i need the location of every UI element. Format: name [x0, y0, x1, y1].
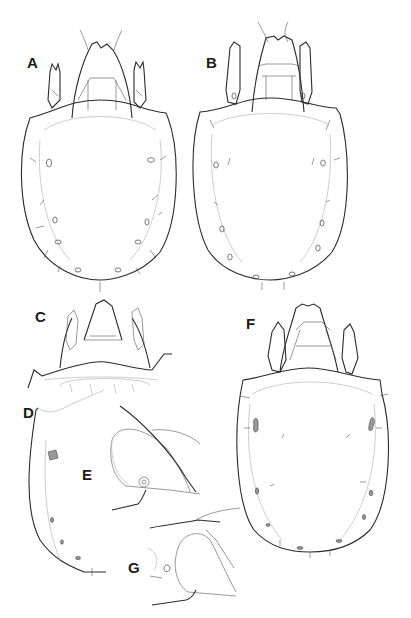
panel-label-c: C — [35, 309, 46, 324]
panel-label-f: F — [246, 316, 255, 331]
panel-a-drawing — [21, 30, 176, 292]
panel-label-b: B — [206, 55, 217, 70]
panel-d-drawing — [29, 390, 106, 576]
panel-label-a: A — [27, 55, 38, 70]
line-drawings — [0, 0, 411, 618]
figure: A B C D E F G — [0, 0, 411, 618]
panel-label-g: G — [128, 560, 140, 575]
panel-e-drawing — [111, 406, 200, 510]
panel-c-drawing — [28, 300, 172, 394]
panel-f-drawing — [237, 304, 389, 558]
panel-label-e: E — [82, 467, 92, 482]
panel-g-drawing — [148, 508, 240, 605]
panel-label-d: D — [23, 405, 34, 420]
